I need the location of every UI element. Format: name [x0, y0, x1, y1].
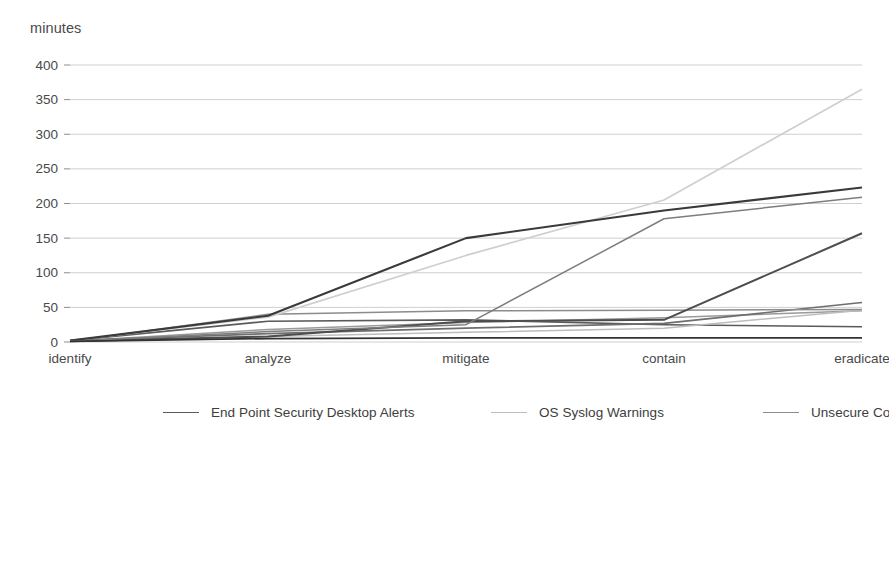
x-axis-tick-label: contain: [642, 351, 686, 366]
y-axis-tick-label: 350: [35, 92, 58, 107]
x-axis-tick-label: eradicate: [834, 351, 889, 366]
legend-item-label: Unsecure Configuration Warnings: [811, 405, 889, 420]
y-axis-tick-label: 100: [35, 265, 58, 280]
y-axis-tick-label: 150: [35, 231, 58, 246]
legend-color-swatch: [163, 412, 199, 413]
y-axis-tick-label: 300: [35, 127, 58, 142]
chart-legend: End Point Security Desktop Alerts OS Sys…: [163, 398, 763, 426]
y-axis-tick-label: 250: [35, 161, 58, 176]
legend-item-label: OS Syslog Warnings: [539, 405, 664, 420]
legend-color-swatch: [763, 412, 799, 413]
legend-item[interactable]: End Point Security Desktop Alerts: [163, 398, 491, 426]
y-axis-tick-label: 0: [50, 335, 58, 350]
y-axis-tick-label: 200: [35, 196, 58, 211]
y-axis-tick-label: 50: [43, 300, 58, 315]
chart-plot-area: 050100150200250300350400identifyanalyzem…: [0, 0, 889, 400]
line-chart: minutes 050100150200250300350400identify…: [0, 0, 889, 561]
legend-item[interactable]: OS Syslog Warnings: [491, 398, 763, 426]
x-axis-tick-label: mitigate: [442, 351, 489, 366]
legend-item[interactable]: Unsecure Configuration Warnings: [763, 398, 889, 426]
series-line: [70, 89, 862, 340]
legend-color-swatch: [491, 412, 527, 413]
legend-item-label: End Point Security Desktop Alerts: [211, 405, 415, 420]
x-axis-tick-label: identify: [49, 351, 92, 366]
y-axis-tick-label: 400: [35, 58, 58, 73]
x-axis-tick-label: analyze: [245, 351, 292, 366]
